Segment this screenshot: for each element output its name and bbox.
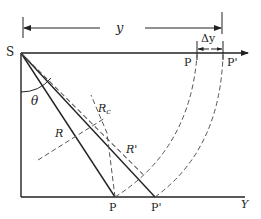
dashed-arc-p-prime bbox=[155, 55, 223, 197]
label-top-p: P bbox=[184, 56, 192, 69]
dashed-arc-p bbox=[115, 55, 197, 197]
dashed-ray-rc bbox=[21, 33, 143, 193]
ray-s-to-p-prime bbox=[21, 53, 155, 197]
diagram-canvas: y Δy S P P' θ Rc R R' P P' Y bbox=[0, 0, 261, 219]
label-y: y bbox=[115, 20, 124, 35]
label-delta-y: Δy bbox=[201, 32, 216, 45]
label-axis-y: Y bbox=[241, 198, 250, 211]
label-top-p-prime: P' bbox=[227, 56, 237, 69]
label-rc: Rc bbox=[97, 102, 111, 116]
label-s: S bbox=[6, 45, 14, 59]
label-bottom-p-prime: P' bbox=[151, 201, 161, 214]
label-r-prime: R' bbox=[125, 143, 137, 156]
label-r: R bbox=[54, 127, 63, 140]
dashed-radius-r bbox=[38, 118, 105, 160]
label-bottom-p: P bbox=[109, 201, 117, 214]
ray-s-to-p bbox=[21, 53, 115, 197]
label-theta: θ bbox=[31, 94, 39, 108]
